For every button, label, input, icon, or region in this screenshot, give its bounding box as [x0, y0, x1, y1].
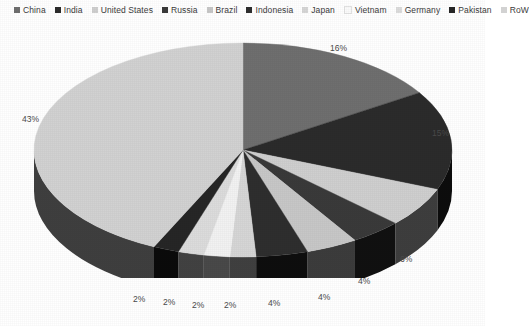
- legend-item-label: Japan: [311, 5, 335, 15]
- pie-svg: [0, 18, 485, 278]
- legend-swatch-icon: [302, 7, 308, 13]
- value-label-russia: 4%: [358, 276, 370, 286]
- legend-item-label: Germany: [405, 5, 441, 15]
- legend-swatch-icon: [501, 7, 507, 13]
- legend-item-label: India: [64, 5, 83, 15]
- legend-item-indonesia[interactable]: Indonesia: [246, 5, 293, 15]
- legend-item-label: Russia: [171, 5, 198, 15]
- value-label-us: 6%: [400, 254, 412, 264]
- legend-item-japan[interactable]: Japan: [302, 5, 335, 15]
- legend-swatch-icon: [246, 7, 252, 13]
- value-label-china: 16%: [330, 43, 347, 53]
- chart-legend: ChinaIndiaUnited StatesRussiaBrazilIndon…: [0, 2, 485, 18]
- pie-side-pakistan: [154, 247, 178, 278]
- legend-item-pakistan[interactable]: Pakistan: [449, 5, 491, 15]
- legend-item-brazil[interactable]: Brazil: [207, 5, 238, 15]
- legend-item-label: United States: [101, 5, 153, 15]
- legend-swatch-icon: [14, 7, 20, 13]
- value-label-japan: 2%: [224, 300, 236, 310]
- value-label-indonesia: 4%: [268, 298, 280, 308]
- legend-item-label: Brazil: [216, 5, 238, 15]
- legend-item-label: RoW: [510, 5, 529, 15]
- legend-item-row[interactable]: RoW: [501, 5, 529, 15]
- value-label-row: 43%: [22, 114, 39, 124]
- legend-swatch-icon: [92, 7, 98, 13]
- legend-item-label: Indonesia: [255, 5, 293, 15]
- legend-item-label: Vietnam: [355, 5, 387, 15]
- legend-item-germany[interactable]: Germany: [396, 5, 441, 15]
- legend-item-vietnam[interactable]: Vietnam: [344, 5, 387, 15]
- value-label-germany: 2%: [163, 297, 175, 307]
- legend-swatch-icon: [207, 7, 213, 13]
- legend-item-russia[interactable]: Russia: [162, 5, 198, 15]
- legend-item-united-states[interactable]: United States: [92, 5, 153, 15]
- value-label-pakistan: 2%: [133, 294, 145, 304]
- pie-side-germany: [178, 252, 203, 278]
- value-label-vietnam: 2%: [192, 300, 204, 310]
- pie-side-vietnam: [204, 255, 230, 278]
- legend-swatch-icon: [396, 7, 402, 13]
- pie-top-faces: [34, 43, 452, 257]
- legend-item-india[interactable]: India: [55, 5, 83, 15]
- legend-item-label: China: [23, 5, 46, 15]
- pie-side-japan: [230, 257, 256, 278]
- legend-item-china[interactable]: China: [14, 5, 46, 15]
- legend-swatch-icon: [344, 6, 352, 14]
- legend-item-label: Pakistan: [458, 5, 491, 15]
- value-label-india: 15%: [432, 128, 449, 138]
- legend-swatch-icon: [162, 7, 168, 13]
- legend-swatch-icon: [55, 7, 61, 13]
- value-label-brazil: 4%: [318, 292, 330, 302]
- legend-swatch-icon: [449, 7, 455, 13]
